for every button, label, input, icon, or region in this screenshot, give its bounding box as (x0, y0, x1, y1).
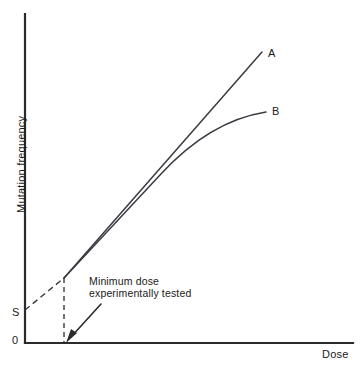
minimum-dose-annotation: Minimum dose experimentally tested (89, 275, 191, 299)
series-label-b: B (272, 105, 279, 118)
y-axis-tick-zero: 0 (12, 334, 18, 347)
series-line-a (64, 52, 262, 278)
extrapolation-dashed-line (25, 278, 64, 310)
annotation-line-1: Minimum dose (89, 275, 159, 287)
series-line-b (64, 112, 266, 278)
annotation-line-2: experimentally tested (89, 287, 191, 299)
x-axis-label: Dose (322, 348, 348, 361)
y-axis-label: Mutation frequency (15, 99, 28, 229)
series-label-a: A (268, 47, 275, 60)
y-axis-tick-s: S (12, 306, 19, 319)
chart-figure: Mutation frequency Dose S 0 A B Minimum … (0, 0, 362, 370)
chart-plot-area (0, 0, 362, 370)
